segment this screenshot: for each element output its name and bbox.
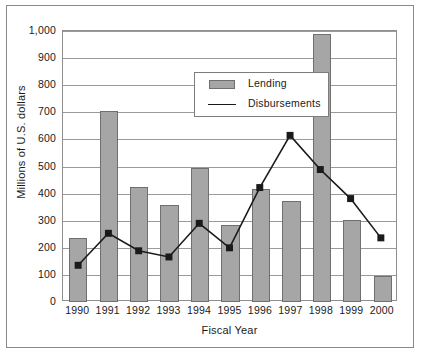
y-axis-tick-labels: 01002003004005006007008009001,000 xyxy=(6,30,56,301)
bar-1999 xyxy=(343,220,361,302)
y-tick-label-600: 600 xyxy=(38,133,56,143)
chart-legend: Lending Disbursements xyxy=(194,72,329,117)
gridline-1000 xyxy=(63,31,396,32)
y-tick-label-200: 200 xyxy=(38,242,56,252)
y-tick-label-0: 0 xyxy=(50,296,56,306)
y-tick-label-700: 700 xyxy=(38,106,56,116)
bar-2000 xyxy=(374,276,392,302)
y-tick-label-500: 500 xyxy=(38,161,56,171)
bar-1997 xyxy=(282,201,300,302)
y-tick-label-900: 900 xyxy=(38,52,56,62)
legend-item-lending: Lending xyxy=(195,76,328,94)
y-tick-label-100: 100 xyxy=(38,269,56,279)
y-axis-title: Millions of U.S. dollars xyxy=(15,42,27,242)
y-tick-label-300: 300 xyxy=(38,215,56,225)
legend-item-disbursements: Disbursements xyxy=(195,96,328,114)
legend-bar-swatch-icon xyxy=(209,80,235,89)
x-tick-label-1997: 1997 xyxy=(275,304,305,316)
x-axis-tick-labels: 1990199119921993199419951996199719981999… xyxy=(62,304,397,320)
disbursements-marker-1997 xyxy=(287,132,294,139)
bar-1996 xyxy=(252,189,270,302)
bar-1993 xyxy=(160,205,178,302)
gridline-900 xyxy=(63,58,396,59)
y-tick-label-400: 400 xyxy=(38,188,56,198)
bar-1994 xyxy=(191,168,209,302)
y-tick-label-800: 800 xyxy=(38,79,56,89)
legend-label-lending: Lending xyxy=(248,77,287,89)
x-tick-label-1995: 1995 xyxy=(214,304,244,316)
plot-area: Lending Disbursements xyxy=(62,30,397,301)
bar-1990 xyxy=(69,238,87,302)
bar-1991 xyxy=(100,111,118,302)
x-tick-label-1990: 1990 xyxy=(62,304,92,316)
chart-figure: 01002003004005006007008009001,000 Millio… xyxy=(0,0,421,362)
x-tick-label-1991: 1991 xyxy=(92,304,122,316)
disbursements-marker-1999 xyxy=(347,195,354,202)
legend-line-swatch-icon xyxy=(208,104,236,105)
x-tick-label-1996: 1996 xyxy=(245,304,275,316)
disbursements-marker-2000 xyxy=(377,234,384,241)
x-tick-label-2000: 2000 xyxy=(367,304,397,316)
x-tick-label-1992: 1992 xyxy=(123,304,153,316)
x-tick-label-1998: 1998 xyxy=(306,304,336,316)
y-tick-label-1000: 1,000 xyxy=(29,25,56,35)
bar-1992 xyxy=(130,187,148,302)
x-tick-label-1994: 1994 xyxy=(184,304,214,316)
bar-1995 xyxy=(221,225,239,302)
x-tick-label-1993: 1993 xyxy=(153,304,183,316)
x-axis-title: Fiscal Year xyxy=(62,324,397,336)
x-tick-label-1999: 1999 xyxy=(336,304,366,316)
legend-label-disbursements: Disbursements xyxy=(248,97,321,109)
